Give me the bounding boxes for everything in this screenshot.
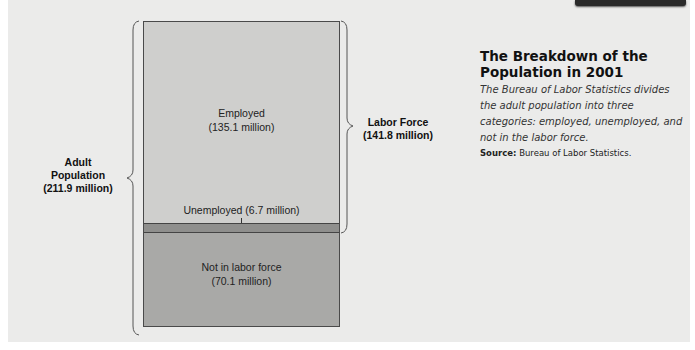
- figure-description: The Bureau of Labor Statistics divides t…: [480, 82, 685, 146]
- employed-name: Employed: [144, 106, 339, 120]
- adult-population-label: Adult Population (211.9 million): [28, 156, 128, 195]
- nilf-label: Not in labor force (70.1 million): [144, 260, 339, 288]
- labor-line2: (141.8 million): [358, 129, 438, 142]
- unemployed-label: Unemployed (6.7 million): [144, 203, 339, 217]
- figure-source: Source: Bureau of Labor Statistics.: [480, 148, 685, 158]
- labor-line1: Labor Force: [358, 116, 438, 129]
- unemployed-segment: [144, 223, 339, 233]
- labor-force-brace-icon: [340, 20, 354, 234]
- adult-line2: Population: [28, 169, 128, 182]
- population-box: Employed (135.1 million) Unemployed (6.7…: [143, 21, 340, 327]
- figure-title: The Breakdown of the Population in 2001: [480, 48, 680, 80]
- employed-label: Employed (135.1 million): [144, 106, 339, 134]
- header-tab: [575, 0, 686, 6]
- employed-segment: Employed (135.1 million) Unemployed (6.7…: [144, 22, 339, 223]
- adult-line1: Adult: [28, 156, 128, 169]
- source-text: Bureau of Labor Statistics.: [519, 148, 631, 158]
- nilf-value: (70.1 million): [144, 274, 339, 288]
- not-in-labor-force-segment: Not in labor force (70.1 million): [144, 233, 339, 326]
- source-label: Source:: [480, 148, 516, 158]
- labor-force-label: Labor Force (141.8 million): [358, 116, 438, 142]
- adult-population-brace-icon: [126, 20, 140, 336]
- nilf-name: Not in labor force: [144, 260, 339, 274]
- employed-value: (135.1 million): [144, 120, 339, 134]
- adult-line3: (211.9 million): [28, 182, 128, 195]
